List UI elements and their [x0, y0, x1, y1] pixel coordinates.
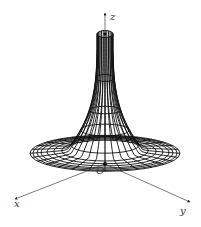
meridian-line — [111, 32, 163, 144]
origin-label: O — [96, 165, 104, 176]
y-axis — [105, 164, 190, 202]
top-point — [103, 32, 106, 35]
z-axis-label: z — [109, 11, 116, 22]
x-axis-label: x — [14, 198, 20, 209]
x-axis — [15, 164, 105, 199]
surface-figure: z x y O — [0, 0, 201, 227]
meridian-line — [46, 32, 98, 144]
y-axis-label: y — [179, 205, 186, 216]
